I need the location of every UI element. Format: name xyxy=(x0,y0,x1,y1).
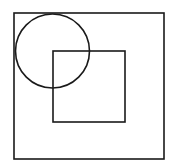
outer-square xyxy=(14,13,164,159)
venn-diagram-canvas xyxy=(0,0,172,161)
